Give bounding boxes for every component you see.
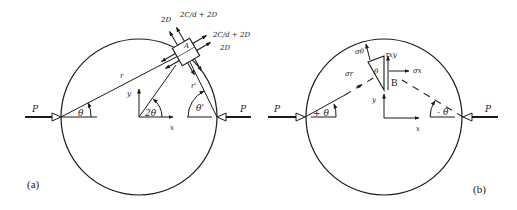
diametral-compression-diagram: P P r θ r' θ' x y 2θ [0,0,517,210]
axis-label-y-b: y [371,96,377,104]
angle-label-plus-theta: + θ [313,108,329,118]
element-label-a: A [183,42,189,50]
angle-arc-plus-theta [334,104,336,117]
load-arrow-icon [52,113,61,121]
stress-label-right-lower: 2D [219,44,230,52]
load-left-b: P [268,104,305,121]
load-label-right-a: P [239,104,247,114]
stress-label-top-left: 2D [160,16,171,24]
element-a [150,16,220,85]
stress-label-top-right: 2C/d + 2D [179,11,217,19]
panel-label-b: (b) [473,183,486,196]
axes-a: x y 2θ [126,65,176,132]
load-arrow-icon [217,113,226,121]
load-arrow-icon [296,113,305,121]
panel-b: P P + θ σr - θ θ B σθ τxy σ [268,39,498,196]
stress-label-sigma-theta: σθ [355,48,365,56]
load-right-b: P [463,104,498,121]
axis-label-x-b: x [416,125,420,133]
angle-arc-theta [88,103,91,117]
stress-label-sigma-r: σr [345,70,354,78]
radius-label-r-prime: r' [191,82,196,90]
angle-arc-minus-theta [430,101,435,117]
radius-label-r: r [120,72,124,80]
stress-label-sigma-x: σx [413,67,422,75]
load-left-a: P [25,104,61,121]
stress-label-right-upper: 2C/d + 2D [212,31,250,39]
element-label-b: B [391,77,398,88]
axis-label-x-a: x [170,124,174,132]
load-label-left-a: P [31,104,39,114]
load-right-a: P [217,104,251,121]
load-label-right-b: P [484,104,492,114]
angle-label-minus-theta: - θ [437,107,449,117]
load-arrow-icon [463,113,472,121]
angle-label-theta-prime: θ' [196,103,204,113]
angle-label-theta-a: θ [78,108,84,118]
panel-a: P P r θ r' θ' x y 2θ [25,11,251,195]
load-label-left-b: P [273,104,281,114]
stress-label-tau-xy: τxy [385,51,398,59]
angle-label-2theta: 2θ [144,108,157,118]
element-b: θ B σθ τxy σx [355,44,422,90]
axes-b: x y [371,94,420,133]
panel-label-a: (a) [27,178,40,191]
axis-label-y-a: y [126,90,132,98]
